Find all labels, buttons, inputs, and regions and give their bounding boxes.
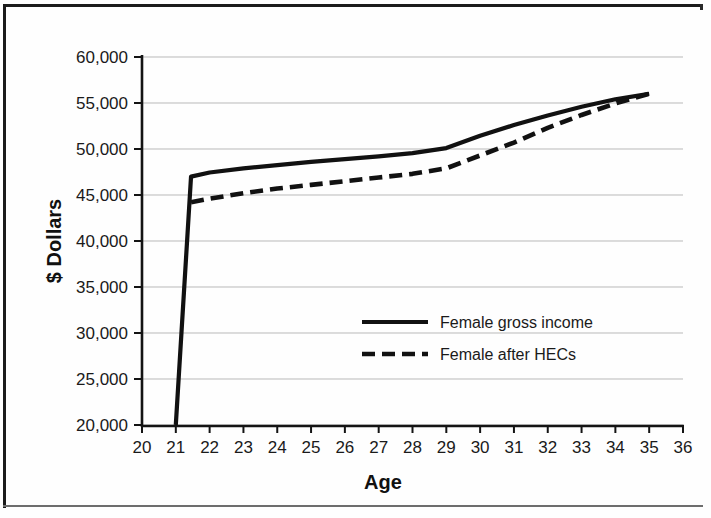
x-tick-label-29: 29 (437, 438, 456, 457)
series-line-female-after-hecs (191, 94, 649, 203)
y-tick-group: 20,00025,00030,00035,00040,00045,00050,0… (76, 48, 142, 435)
line-chart: 20,00025,00030,00035,00040,00045,00050,0… (0, 0, 711, 518)
x-tick-label-35: 35 (640, 438, 659, 457)
chart-legend: Female gross income Female after HECs (362, 314, 593, 363)
x-tick-label-36: 36 (674, 438, 693, 457)
y-tick-label-55000: 55,000 (76, 94, 128, 113)
chart-figure: 20,00025,00030,00035,00040,00045,00050,0… (0, 0, 711, 518)
x-tick-label-34: 34 (606, 438, 625, 457)
x-tick-label-23: 23 (234, 438, 253, 457)
x-tick-label-21: 21 (166, 438, 185, 457)
x-tick-label-33: 33 (572, 438, 591, 457)
gridline-group (142, 57, 683, 425)
legend-label-female-gross-income: Female gross income (440, 314, 593, 331)
y-tick-label-60000: 60,000 (76, 48, 128, 67)
legend-label-female-after-hecs: Female after HECs (440, 346, 576, 363)
y-tick-label-50000: 50,000 (76, 140, 128, 159)
x-tick-label-27: 27 (369, 438, 388, 457)
x-tick-label-26: 26 (335, 438, 354, 457)
x-tick-label-32: 32 (538, 438, 557, 457)
x-tick-group: 2021222324252627282930313233343536 (133, 425, 693, 457)
y-tick-label-35000: 35,000 (76, 278, 128, 297)
x-tick-label-31: 31 (504, 438, 523, 457)
series-group (176, 94, 649, 425)
x-tick-label-30: 30 (471, 438, 490, 457)
x-tick-label-25: 25 (302, 438, 321, 457)
y-tick-label-45000: 45,000 (76, 186, 128, 205)
x-tick-label-28: 28 (403, 438, 422, 457)
y-axis-title: $ Dollars (43, 199, 65, 283)
x-tick-label-20: 20 (133, 438, 152, 457)
x-tick-label-22: 22 (200, 438, 219, 457)
y-tick-label-20000: 20,000 (76, 416, 128, 435)
y-tick-label-40000: 40,000 (76, 232, 128, 251)
y-tick-label-30000: 30,000 (76, 324, 128, 343)
x-tick-label-24: 24 (268, 438, 287, 457)
x-axis-title: Age (364, 471, 402, 493)
y-tick-label-25000: 25,000 (76, 370, 128, 389)
series-line-female-gross-income (176, 94, 649, 425)
